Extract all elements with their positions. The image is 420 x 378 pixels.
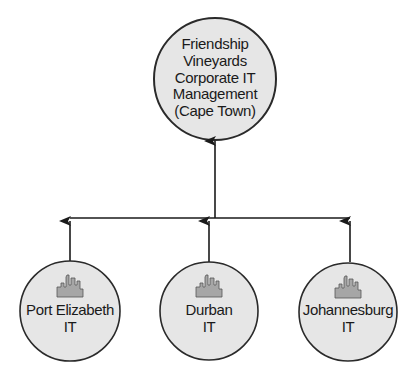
root-label-line: Vineyards [155, 53, 275, 70]
root-node-label: Friendship Vineyards Corporate IT Manage… [155, 36, 275, 120]
child-label-line: IT [293, 319, 403, 336]
child-label-port-elizabeth: Port Elizabeth IT [15, 302, 125, 335]
child-label-johannesburg: Johannesburg IT [293, 302, 403, 335]
root-label-line: (Cape Town) [155, 103, 275, 120]
child-label-line: Port Elizabeth [15, 302, 125, 319]
child-label-line: Durban [154, 302, 264, 319]
root-label-line: Friendship [155, 36, 275, 53]
child-label-line: IT [154, 319, 264, 336]
root-label-line: Corporate IT [155, 70, 275, 87]
child-label-line: Johannesburg [293, 302, 403, 319]
child-label-durban: Durban IT [154, 302, 264, 335]
child-label-line: IT [15, 319, 125, 336]
root-label-line: Management [155, 86, 275, 103]
